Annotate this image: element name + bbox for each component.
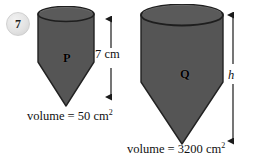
solid-q-letter: Q [180, 68, 190, 81]
question-number-label: 7 [15, 18, 21, 30]
volume-caption-q-text: volume = 3200 cm [127, 142, 221, 156]
dimension-label-h: h [228, 69, 234, 82]
dimension-label-7cm: 7 cm [95, 48, 120, 61]
volume-caption-q: volume = 3200 cm2 [127, 143, 225, 156]
solid-q-top-ellipse [141, 5, 223, 26]
solid-p-top-ellipse [38, 7, 94, 22]
volume-caption-p: volume = 50 cm2 [27, 110, 113, 123]
volume-caption-p-exponent: 2 [109, 108, 113, 117]
volume-caption-q-exponent: 2 [221, 141, 225, 150]
diagram-canvas: 7 P 7 cm Q [0, 0, 261, 167]
question-number-badge: 7 [6, 12, 30, 36]
solid-p-letter: P [63, 52, 71, 65]
volume-caption-p-text: volume = 50 cm [27, 109, 109, 123]
